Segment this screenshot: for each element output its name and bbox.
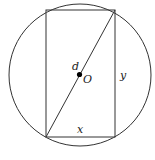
label-d: d [72, 60, 79, 73]
label-y: y [119, 69, 127, 82]
inscribed-rectangle-diagram: d O y x [0, 0, 155, 160]
label-x: x [77, 123, 84, 136]
label-o: O [83, 73, 92, 86]
